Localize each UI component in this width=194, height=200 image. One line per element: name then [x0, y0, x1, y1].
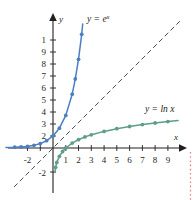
- y-tick-label-6: 7: [42, 71, 47, 81]
- y-tick-label--2: -2: [39, 168, 47, 178]
- y-tick-label-4: 5: [42, 95, 47, 105]
- x-tick-label--2: -2: [24, 155, 32, 165]
- y-tick-label-3: 4: [42, 107, 47, 117]
- figure-container: -2 1 2 3 4 5 6 7 8 9 x: [0, 0, 194, 200]
- exp-curve-annotation: y = ex: [86, 13, 110, 24]
- ln-curve-annotation: y = ln x: [144, 104, 175, 114]
- x-tick-label-2: 2: [76, 155, 81, 165]
- y-tick-label-2: 3: [42, 119, 47, 129]
- x-tick-label-3: 3: [89, 155, 94, 165]
- y-tick-label-9: 1: [42, 35, 47, 45]
- x-axis-group: -2 1 2 3 4 5 6 7 8 9 x: [8, 132, 187, 165]
- chart-svg: -2 1 2 3 4 5 6 7 8 9 x: [0, 0, 194, 200]
- x-tick-label-8: 8: [153, 155, 158, 165]
- x-tick-label-5: 5: [115, 155, 120, 165]
- x-axis-label: x: [173, 132, 178, 142]
- x-tick-label-7: 7: [140, 155, 145, 165]
- y-tick-label-7: 8: [42, 59, 47, 69]
- x-tick-label-9: 9: [166, 155, 171, 165]
- y-axis-arrowhead: [49, 13, 57, 21]
- exp-annotation-text: y = e: [86, 14, 107, 24]
- y-axis-label: y: [58, 14, 63, 24]
- x-tick-label-6: 6: [127, 155, 132, 165]
- x-tick-label-4: 4: [102, 155, 107, 165]
- x-axis-arrowhead: [179, 144, 187, 152]
- y-axis-group: 2 3 4 5 6 7 8 9 1 -2 y: [39, 13, 64, 193]
- exp-annotation-exponent: x: [106, 13, 110, 20]
- y-tick-label-5: 6: [42, 83, 47, 93]
- x-tick-label-1: 1: [64, 155, 69, 165]
- y-tick-label-8: 9: [42, 47, 47, 57]
